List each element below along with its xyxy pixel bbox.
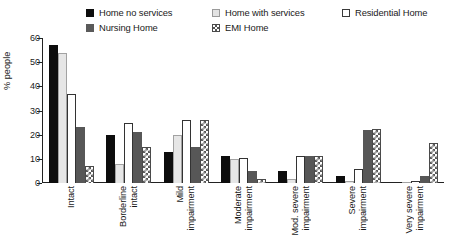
- legend-label: Residential Home: [355, 7, 427, 18]
- bar: [287, 179, 296, 183]
- x-category-label-line: Mild: [175, 186, 186, 202]
- y-axis-title: % people: [2, 30, 12, 90]
- legend-item-emi-home: EMI Home: [212, 21, 342, 34]
- bar: [411, 181, 420, 183]
- bar-group: [43, 38, 100, 183]
- bar: [420, 176, 429, 183]
- bar: [173, 135, 182, 183]
- bar: [115, 164, 124, 183]
- legend-label: Home no services: [99, 7, 172, 18]
- bar-group: [100, 38, 157, 183]
- bar: [85, 166, 94, 183]
- bar-series-container: [43, 38, 444, 183]
- bar: [345, 181, 354, 183]
- x-category-label-line: intact: [129, 186, 140, 207]
- bar: [182, 120, 191, 183]
- x-category-label-line: Mod. severe: [290, 186, 301, 235]
- bar: [354, 169, 363, 184]
- bar: [402, 182, 411, 183]
- bar: [200, 120, 209, 183]
- x-category-label-line: Intact: [66, 186, 77, 208]
- bar: [76, 127, 85, 183]
- y-tick-mark: [37, 62, 42, 63]
- legend-item-nursing-home: Nursing Home: [86, 21, 212, 34]
- y-tick-mark: [37, 183, 42, 184]
- bar: [372, 129, 381, 183]
- bar: [106, 135, 115, 183]
- bar: [164, 152, 173, 183]
- legend-item-home-no-services: Home no services: [86, 6, 212, 19]
- bar: [305, 156, 314, 183]
- chart-legend: Home no services Home with services Resi…: [86, 6, 442, 36]
- bar: [124, 123, 133, 183]
- legend-label: EMI Home: [225, 22, 268, 33]
- x-category-label-line: Borderline: [118, 186, 129, 227]
- bar-group: [272, 38, 329, 183]
- bar: [142, 147, 151, 183]
- x-category-label-line: Severe: [347, 186, 358, 215]
- x-category-label-line: impairment: [358, 186, 369, 230]
- legend-swatch-icon: [86, 24, 94, 32]
- bar: [67, 94, 76, 183]
- bar: [221, 156, 230, 183]
- y-tick-mark: [37, 111, 42, 112]
- legend-label: Nursing Home: [99, 22, 158, 33]
- bar-group: [158, 38, 215, 183]
- y-tick-mark: [37, 159, 42, 160]
- x-category-label-line: impairment: [244, 186, 255, 230]
- y-tick-mark: [37, 135, 42, 136]
- bar-group: [215, 38, 272, 183]
- legend-swatch-icon: [212, 9, 220, 17]
- x-category-label-line: Very severe: [404, 186, 415, 233]
- bar: [363, 130, 372, 183]
- bar: [429, 143, 438, 183]
- bar: [58, 53, 67, 184]
- x-category-label-line: Moderate: [233, 186, 244, 224]
- y-tick-mark: [37, 86, 42, 87]
- legend-swatch-icon: [342, 9, 350, 17]
- plot-area: % people 0102030405060 IntactBorderlinei…: [0, 38, 449, 243]
- bar: [248, 171, 257, 183]
- bar: [133, 132, 142, 183]
- chart-root: Home no services Home with services Resi…: [0, 0, 449, 243]
- bar: [314, 156, 323, 183]
- x-category-label-line: impairment: [415, 186, 426, 230]
- bar: [278, 171, 287, 183]
- x-category-label-line: impairment: [186, 186, 197, 230]
- bar-group: [387, 38, 444, 183]
- x-category-label-line: impairment: [301, 186, 312, 230]
- bar: [239, 158, 248, 183]
- bar: [230, 159, 239, 183]
- legend-item-residential-home: Residential Home: [342, 6, 442, 19]
- bar: [257, 179, 266, 183]
- bar-group: [329, 38, 386, 183]
- legend-swatch-icon: [212, 24, 220, 32]
- bar: [296, 156, 305, 183]
- legend-item-home-with-services: Home with services: [212, 6, 342, 19]
- y-tick-mark: [37, 38, 42, 39]
- bar: [191, 147, 200, 183]
- x-axis-category-labels: IntactBorderlineintactMildimpairmentMode…: [43, 186, 444, 243]
- legend-label: Home with services: [225, 7, 304, 18]
- bar: [49, 45, 58, 183]
- legend-swatch-icon: [86, 9, 94, 17]
- bar: [336, 176, 345, 183]
